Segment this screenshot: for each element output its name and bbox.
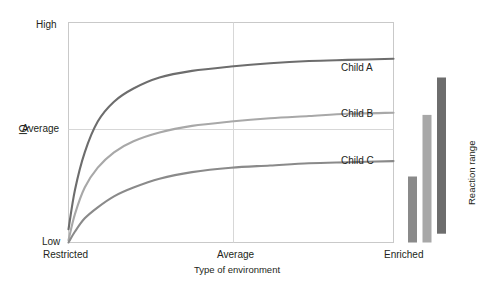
y-tick-high: High xyxy=(36,19,57,30)
reaction-range-title: Reaction range xyxy=(466,141,477,205)
curve-child-b xyxy=(69,113,394,241)
chart-canvas xyxy=(0,0,479,289)
curve-label-child-c: Child C xyxy=(341,155,374,166)
y-axis-title: IQ xyxy=(18,124,29,135)
reaction-range-bar-child-c xyxy=(408,177,417,243)
curve-child-a xyxy=(69,59,394,230)
y-tick-low: Low xyxy=(42,236,60,247)
curve-label-child-b: Child B xyxy=(341,108,373,119)
x-tick-enriched: Enriched xyxy=(384,249,423,260)
reaction-range-bar-child-b xyxy=(423,115,432,243)
x-tick-restricted: Restricted xyxy=(43,249,88,260)
reaction-range-bar-child-a xyxy=(437,78,446,234)
curve-child-c xyxy=(69,161,394,242)
curve-label-child-a: Child A xyxy=(341,62,373,73)
x-axis-title: Type of environment xyxy=(194,264,280,275)
plot-frame xyxy=(69,23,394,243)
x-tick-average: Average xyxy=(217,249,254,260)
reaction-range-chart: High Average Low IQ Restricted Average E… xyxy=(0,0,479,289)
